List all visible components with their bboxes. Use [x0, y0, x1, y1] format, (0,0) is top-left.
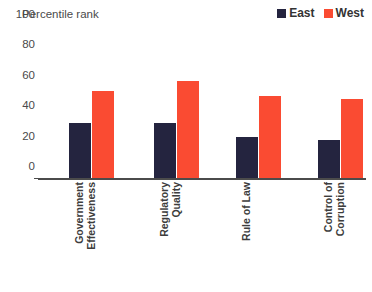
- category-label-text: Quality: [171, 182, 182, 218]
- category-label-text: Corruption: [335, 182, 346, 236]
- y-axis-tick-zero: [34, 178, 42, 179]
- bar-west: [341, 99, 363, 178]
- x-axis-line: [38, 178, 366, 180]
- chart-legend: East West: [277, 7, 364, 19]
- category-label: Quality: [171, 182, 191, 290]
- bar-west: [92, 91, 114, 178]
- category-label-text: Rule of Law: [241, 182, 252, 241]
- legend-swatch-west: [324, 9, 333, 18]
- y-axis-tick-label: 60: [22, 69, 35, 81]
- bar-group: [154, 26, 199, 178]
- y-axis-tick-label: 80: [22, 38, 35, 50]
- y-axis-tick-label: 100: [16, 8, 35, 20]
- legend-label-west: West: [336, 7, 364, 19]
- bar-group: [318, 26, 363, 178]
- bar-east: [236, 137, 258, 178]
- bar-group: [236, 26, 281, 178]
- category-label: Rule of Law: [241, 182, 261, 290]
- category-label-text: Control of: [323, 182, 334, 232]
- bar-east: [154, 123, 176, 178]
- bar-group: [69, 26, 114, 178]
- plot-area: 100 80 60 40 20 0: [44, 26, 366, 178]
- x-axis-category-labels: GovernmentEffectivenessRegulatoryQuality…: [44, 182, 366, 290]
- bar-west: [177, 81, 199, 178]
- y-axis-tick-label: 20: [22, 130, 35, 142]
- category-label: Effectiveness: [86, 182, 106, 290]
- category-label: Corruption: [335, 182, 355, 290]
- bar-west: [259, 96, 281, 178]
- y-axis-tick-label: 40: [22, 99, 35, 111]
- legend-item-east: East: [277, 7, 314, 19]
- category-label-text: Regulatory: [159, 182, 170, 237]
- legend-item-west: West: [324, 7, 364, 19]
- bar-east: [69, 123, 91, 178]
- bar-groups: [44, 26, 366, 178]
- category-label-text: Effectiveness: [86, 182, 97, 250]
- legend-swatch-east: [277, 9, 286, 18]
- category-label-text: Government: [74, 182, 85, 244]
- legend-label-east: East: [289, 7, 314, 19]
- y-axis-tick-label: 0: [29, 160, 35, 172]
- bar-east: [318, 140, 340, 178]
- bar-chart: Percentile rank East West 100 80 60 40 2…: [0, 0, 372, 292]
